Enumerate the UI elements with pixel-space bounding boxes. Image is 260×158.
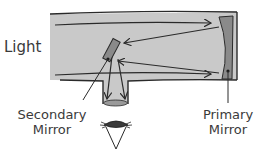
secondary-mirror-label: Secondary Mirror <box>16 107 88 137</box>
primary-mirror-label-line1: Primary <box>198 107 258 122</box>
light-label: Light <box>4 40 41 55</box>
primary-mirror-label-line2: Mirror <box>198 122 258 137</box>
eye-icon <box>100 121 132 149</box>
secondary-mirror-label-line2: Mirror <box>16 122 88 137</box>
primary-mirror-label: Primary Mirror <box>198 107 258 137</box>
telescope-tube <box>50 11 237 104</box>
telescope-diagram: TELESCOPE <box>0 0 260 158</box>
eyepiece-lens <box>104 100 128 106</box>
secondary-mirror-label-line1: Secondary <box>16 107 88 122</box>
